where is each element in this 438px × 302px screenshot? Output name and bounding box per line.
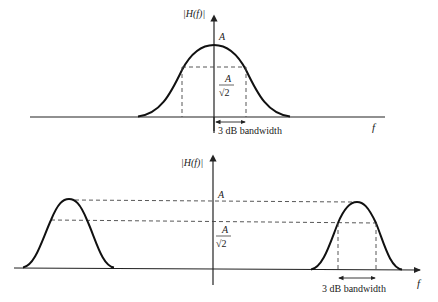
bottom-peak-label: A xyxy=(217,189,225,200)
bottom-x-axis-label: f xyxy=(417,277,422,289)
bottom-half-power-denominator: √2 xyxy=(216,238,227,249)
top-half-power-denominator: √2 xyxy=(219,87,230,98)
top-x-axis-label: f xyxy=(372,121,377,133)
bottom-graph: |H(f)| A A √2 3 dB bandwidth f xyxy=(14,157,422,294)
top-peak-label: A xyxy=(218,31,226,42)
figure-canvas: |H(f)| A A √2 3 dB bandwidth f |H(f)| A … xyxy=(0,0,438,302)
bottom-x-axis xyxy=(14,268,420,270)
bottom-y-axis-label: |H(f)| xyxy=(181,157,203,169)
bottom-half-power-numerator: A xyxy=(221,224,229,235)
bottom-left-lobe-curve xyxy=(23,199,114,268)
top-half-power-numerator: A xyxy=(224,73,232,84)
bottom-bandwidth-label: 3 dB bandwidth xyxy=(322,283,386,294)
top-y-axis-label: |H(f)| xyxy=(183,8,205,20)
bottom-right-lobe-curve xyxy=(311,202,402,270)
top-graph: |H(f)| A A √2 3 dB bandwidth f xyxy=(30,8,385,136)
top-bandwidth-label: 3 dB bandwidth xyxy=(218,125,282,136)
